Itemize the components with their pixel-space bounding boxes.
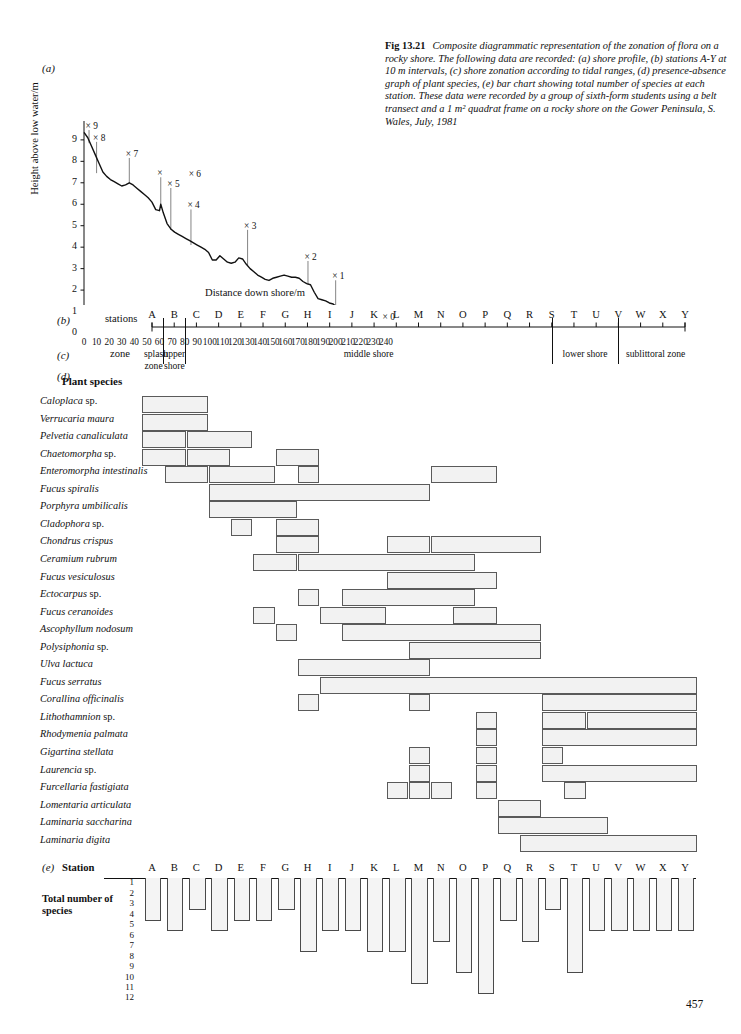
- bar-station-letter-J: J: [344, 862, 360, 873]
- station-letter-I: I: [322, 309, 338, 320]
- station-letter-R: R: [522, 309, 538, 320]
- bar-station-letter-P: P: [477, 862, 493, 873]
- station-letter-X: X: [655, 309, 671, 320]
- species-count-bar: [633, 878, 650, 931]
- figure-caption-text: Composite diagrammatic representation of…: [385, 40, 726, 127]
- bar-chart-station-label: Station: [62, 862, 94, 873]
- station-letter-M: M: [411, 309, 427, 320]
- zone-label-splash-zone: splash zone: [144, 348, 163, 371]
- profile-y-tick: 6: [63, 197, 77, 208]
- stations-row-label: stations: [105, 313, 137, 324]
- bar-station-letter-G: G: [277, 862, 293, 873]
- bar-station-letter-U: U: [588, 862, 604, 873]
- panel-label-e: (e): [42, 861, 54, 873]
- bar-station-letter-F: F: [255, 862, 271, 873]
- species-count-bar: [278, 878, 295, 910]
- species-presence-bar: [298, 589, 319, 606]
- page-number: 457: [686, 998, 703, 1010]
- profile-y-axis-label: Height above low water/m: [29, 59, 40, 219]
- bar-scale-tick: 10: [118, 972, 134, 982]
- bar-scale-tick: 8: [118, 951, 134, 961]
- bar-station-letter-C: C: [188, 862, 204, 873]
- species-name: Ulva lactuca: [40, 658, 93, 669]
- species-presence-bar: [209, 484, 430, 501]
- species-count-bar: [656, 878, 673, 931]
- station-letter-F: F: [255, 309, 271, 320]
- species-presence-bar: [409, 747, 430, 764]
- species-presence-bar: [276, 624, 297, 641]
- species-presence-bar: [431, 782, 452, 799]
- station-letter-O: O: [455, 309, 471, 320]
- species-presence-bar: [409, 765, 430, 782]
- zone-row: zone splash zoneupper shoremiddle shorel…: [0, 340, 741, 380]
- species-presence-bar: [431, 466, 497, 483]
- species-presence-bar: [542, 712, 585, 729]
- species-name: Furcellaria fastigiata: [40, 781, 129, 792]
- station-letter-G: G: [277, 309, 293, 320]
- bar-chart-axis-label: Total number of species: [42, 893, 117, 917]
- figure-number: Fig 13.21: [385, 40, 432, 51]
- station-letter-B: B: [166, 309, 182, 320]
- species-name: Caloplaca sp.: [40, 395, 97, 406]
- species-name: Corallina officinalis: [40, 693, 124, 704]
- bar-scale-tick: 11: [118, 982, 134, 992]
- profile-y-tick: 3: [63, 262, 77, 273]
- zone-label-sublittoral-zone: sublittoral zone: [618, 348, 693, 360]
- species-count-bar: [167, 878, 184, 931]
- species-name: Ectocarpus sp.: [40, 588, 101, 599]
- species-presence-bar: [142, 449, 185, 466]
- species-presence-bar: [409, 642, 541, 659]
- bar-station-letter-H: H: [299, 862, 315, 873]
- profile-plot: [0, 55, 400, 305]
- species-name: Fucus vesiculosus: [40, 571, 115, 582]
- species-count-bar: [234, 878, 251, 921]
- bar-station-letter-N: N: [433, 862, 449, 873]
- species-presence-bar: [342, 624, 541, 641]
- species-count-bar: [433, 878, 450, 942]
- profile-station-marker: × 6: [189, 169, 201, 179]
- species-presence-bar: [453, 607, 496, 624]
- species-name: Enteromorpha intestinalis: [40, 465, 147, 476]
- station-letter-C: C: [188, 309, 204, 320]
- species-presence-bar: [587, 712, 697, 729]
- species-name: Cladophora sp.: [40, 518, 104, 529]
- station-letter-A: A: [144, 309, 160, 320]
- station-letter-P: P: [477, 309, 493, 320]
- species-name: Fucus serratus: [40, 676, 102, 687]
- profile-y-tick: 5: [63, 219, 77, 230]
- bar-station-letter-I: I: [322, 862, 338, 873]
- bar-station-letter-Y: Y: [677, 862, 693, 873]
- bar-scale-tick: 7: [118, 940, 134, 950]
- species-presence-bar: [387, 782, 408, 799]
- species-presence-bar: [476, 729, 497, 746]
- species-count-bar: [300, 878, 317, 952]
- station-letter-H: H: [299, 309, 315, 320]
- station-letter-Q: Q: [499, 309, 515, 320]
- station-letter-E: E: [233, 309, 249, 320]
- species-count-bar: [567, 878, 584, 973]
- species-presence-bar: [520, 835, 697, 852]
- profile-station-marker: × 5: [167, 179, 179, 189]
- bar-station-letter-K: K: [366, 862, 382, 873]
- species-presence-bar: [142, 396, 208, 413]
- bar-station-letter-X: X: [655, 862, 671, 873]
- species-presence-bar: [476, 782, 497, 799]
- species-count-bar: [211, 878, 228, 931]
- figure-caption: Fig 13.21Composite diagrammatic represen…: [385, 40, 730, 128]
- species-count-bar: [256, 878, 273, 921]
- species-presence-bar: [142, 431, 185, 448]
- species-count-bar: [189, 878, 206, 910]
- species-name: Laminaria saccharina: [40, 816, 132, 827]
- species-name: Fucus ceranoides: [40, 606, 113, 617]
- station-letter-D: D: [211, 309, 227, 320]
- species-presence-bar: [387, 536, 430, 553]
- bar-station-letter-A: A: [144, 862, 160, 873]
- species-presence-bar: [431, 536, 541, 553]
- species-presence-bar: [498, 817, 608, 834]
- species-presence-bar: [298, 659, 430, 676]
- plant-species-heading: Plant species: [62, 375, 122, 387]
- species-presence-bar: [342, 589, 474, 606]
- profile-y-tick: 2: [63, 283, 77, 294]
- species-presence-bar: [542, 765, 696, 782]
- station-letter-N: N: [433, 309, 449, 320]
